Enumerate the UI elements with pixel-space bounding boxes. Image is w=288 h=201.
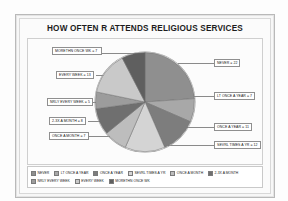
legend-item-once-a-month[interactable]: ONCE A MONTH xyxy=(170,171,203,176)
callout-morethn-once-wk[interactable]: MORETHN ONCE WK = 7 xyxy=(52,47,102,55)
callout-once-a-year[interactable]: ONCE A YEAR = 11 xyxy=(214,123,252,131)
callout-2-3x-a-month[interactable]: 2-3X A MONTH = 8 xyxy=(49,117,86,125)
legend-item-morethn-once-wk[interactable]: MORETHN ONCE WK xyxy=(109,179,150,184)
legend-label: LT ONCE A YEAR xyxy=(61,171,89,175)
legend-label: NRLY EVERY WEEK xyxy=(38,179,70,183)
legend-item-sevrl-times-a-yr[interactable]: SEVRL TIMES A YR xyxy=(128,171,165,176)
legend-label: 2-3X A MONTH xyxy=(215,171,239,175)
legend-row-2: NRLY EVERY WEEKEVERY WEEKMORETHN ONCE WK xyxy=(31,177,259,185)
callout-nrly-every-week[interactable]: NRLY EVERY WEEK = 5 xyxy=(47,98,93,106)
pie-slice-never[interactable] xyxy=(145,52,194,102)
legend-item-never[interactable]: NEVER xyxy=(31,171,49,176)
legend-label: ONCE A MONTH xyxy=(177,171,203,175)
legend-label: EVERY WEEK xyxy=(81,179,104,183)
chart-card-inner: HOW OFTEN R ATTENDS RELIGIOUS SERVICES xyxy=(19,18,271,194)
legend-label: ONCE A YEAR xyxy=(100,171,123,175)
legend-label: NEVER xyxy=(38,171,50,175)
legend-swatch-icon xyxy=(31,179,36,184)
legend-swatch-icon xyxy=(128,171,133,176)
screenshot-root: HOW OFTEN R ATTENDS RELIGIOUS SERVICES xyxy=(0,0,288,201)
pie-chart xyxy=(95,52,195,152)
legend-swatch-icon xyxy=(208,171,213,176)
pie-slices-svg xyxy=(95,52,195,152)
legend-swatch-icon xyxy=(93,171,98,176)
callout-every-week[interactable]: EVERY WEEK = 13 xyxy=(56,71,94,79)
legend-swatch-icon xyxy=(31,171,36,176)
pie-body xyxy=(95,52,195,152)
legend-label: MORETHN ONCE WK xyxy=(115,179,150,183)
chart-title-band: HOW OFTEN R ATTENDS RELIGIOUS SERVICES xyxy=(20,21,270,36)
legend-item-2-3x-a-month[interactable]: 2-3X A MONTH xyxy=(208,171,238,176)
chart-legend: NEVERLT ONCE A YEARONCE A YEARSEVRL TIME… xyxy=(27,166,263,188)
legend-row-1: NEVERLT ONCE A YEARONCE A YEARSEVRL TIME… xyxy=(31,169,259,177)
legend-item-once-a-year[interactable]: ONCE A YEAR xyxy=(93,171,122,176)
callout-sevrl-times-a-yr[interactable]: SEVRL TIMES A YR = 12 xyxy=(214,141,261,149)
callout-lt-once-a-year[interactable]: LT ONCE A YEAR = 7 xyxy=(214,92,255,100)
legend-item-every-week[interactable]: EVERY WEEK xyxy=(75,179,104,184)
legend-label: SEVRL TIMES A YR xyxy=(134,171,165,175)
callout-never[interactable]: NEVER = 22 xyxy=(214,59,240,67)
callout-once-a-month[interactable]: ONCE A MONTH = 7 xyxy=(49,132,89,140)
legend-swatch-icon xyxy=(75,179,80,184)
legend-swatch-icon xyxy=(170,171,175,176)
page-title: HOW OFTEN R ATTENDS RELIGIOUS SERVICES xyxy=(47,24,243,33)
legend-item-nrly-every-week[interactable]: NRLY EVERY WEEK xyxy=(31,179,70,184)
legend-item-lt-once-a-year[interactable]: LT ONCE A YEAR xyxy=(54,171,88,176)
legend-swatch-icon xyxy=(54,171,59,176)
plot-area: MORETHN ONCE WK = 7 EVERY WEEK = 13 NRLY… xyxy=(27,38,263,165)
legend-swatch-icon xyxy=(109,179,114,184)
chart-card: HOW OFTEN R ATTENDS RELIGIOUS SERVICES xyxy=(15,14,275,198)
